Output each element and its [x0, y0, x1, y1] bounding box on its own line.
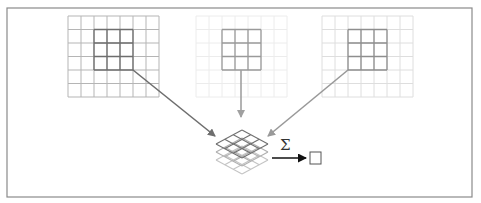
sum-symbol: Σ [280, 136, 291, 154]
channel-arrow [268, 70, 348, 136]
input-channel-1 [68, 16, 159, 97]
kernel-window [94, 30, 133, 71]
channel-arrow [133, 70, 215, 136]
input-channel-3 [322, 16, 413, 97]
kernel-stack [216, 130, 268, 174]
output-cell [310, 152, 321, 164]
channel-arrows [133, 70, 348, 136]
kernel-window [222, 30, 261, 71]
convolution-diagram: Σ [0, 0, 481, 203]
kernel-window [348, 30, 387, 71]
